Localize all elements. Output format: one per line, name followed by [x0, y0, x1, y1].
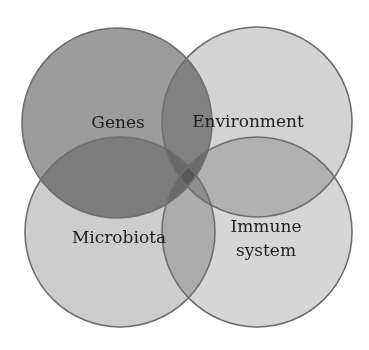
label-genes: Genes: [91, 112, 144, 132]
label-environment: Environment: [192, 111, 304, 131]
label-immune-line2: system: [236, 240, 296, 260]
venn-diagram: Genes Environment Microbiota Immune syst…: [0, 0, 369, 350]
label-microbiota: Microbiota: [72, 227, 166, 247]
label-immune-line1: Immune: [231, 216, 302, 236]
